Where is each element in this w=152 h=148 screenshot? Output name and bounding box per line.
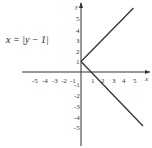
svg-text:3: 3 — [76, 37, 80, 45]
svg-text:-3: -3 — [74, 103, 80, 111]
svg-text:-4: -4 — [42, 77, 48, 85]
svg-text:4: 4 — [122, 77, 126, 85]
upper-branch-line — [81, 8, 134, 62]
svg-text:1: 1 — [91, 77, 95, 85]
svg-text:-1: -1 — [74, 81, 80, 89]
coordinate-graph: x y -5 -4 -3 -2 -1 1 2 3 4 5 5 4 3 2 1 -… — [0, 0, 152, 148]
x-axis-label: x — [144, 75, 149, 83]
svg-text:3: 3 — [112, 77, 116, 85]
svg-text:-3: -3 — [52, 77, 58, 85]
x-tick-labels: -5 -4 -3 -2 -1 1 2 3 4 5 — [32, 77, 137, 85]
svg-text:5: 5 — [133, 77, 137, 85]
svg-text:-4: -4 — [74, 114, 80, 122]
svg-text:-5: -5 — [74, 124, 80, 132]
y-axis-arrow-icon — [79, 2, 83, 8]
svg-text:4: 4 — [76, 27, 80, 35]
y-axis-label: y — [74, 3, 79, 11]
svg-text:-2: -2 — [74, 92, 80, 100]
x-axis-arrow-icon — [145, 70, 150, 74]
svg-text:5: 5 — [76, 15, 80, 23]
svg-text:-5: -5 — [32, 77, 38, 85]
svg-text:2: 2 — [76, 48, 80, 56]
svg-text:-2: -2 — [61, 77, 67, 85]
y-tick-labels: 5 4 3 2 1 -1 -2 -3 -4 -5 — [74, 15, 80, 132]
svg-text:1: 1 — [76, 58, 80, 66]
lower-branch-line — [81, 62, 143, 127]
